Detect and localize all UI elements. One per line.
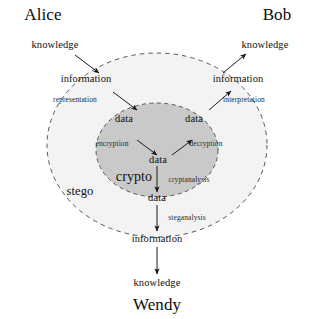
label-steganalysis: steganalysis	[168, 214, 205, 222]
node-bottom-data: data	[148, 193, 166, 204]
diagram-canvas: Alice Bob Wendy knowledge knowledge know…	[0, 0, 316, 319]
node-wendy-information: information	[132, 234, 183, 245]
actor-wendy: Wendy	[133, 296, 181, 313]
node-alice-data: data	[115, 114, 133, 125]
node-wendy-knowledge: knowledge	[134, 278, 181, 289]
node-alice-knowledge: knowledge	[32, 40, 79, 51]
edge-bob-information-to-knowledge	[223, 54, 246, 73]
node-bob-information: information	[213, 74, 264, 85]
node-alice-information: information	[61, 74, 112, 85]
node-bob-data: data	[185, 114, 203, 125]
label-representation: representation	[53, 96, 97, 104]
node-center-data: data	[149, 155, 167, 166]
label-cryptanalysis: cryptanalysis	[169, 176, 210, 184]
label-encryption: encryption	[95, 140, 128, 148]
node-bob-knowledge: knowledge	[242, 40, 289, 51]
edge-alice-knowledge-to-information	[75, 55, 99, 73]
actor-bob: Bob	[263, 6, 292, 23]
label-stego-region: stego	[67, 185, 94, 198]
label-crypto-region: crypto	[116, 170, 152, 184]
label-interpretation: interpretation	[223, 96, 265, 104]
label-decryption: decryption	[189, 140, 222, 148]
actor-alice: Alice	[24, 6, 61, 23]
